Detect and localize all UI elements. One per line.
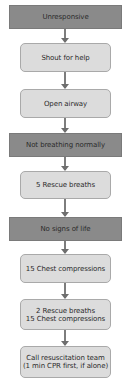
node-label-line-2: (1 min CPR first, if alone) bbox=[23, 362, 108, 370]
node-call-resuscitation-team: Call resuscitation team (1 min CPR first… bbox=[20, 346, 111, 378]
node-open-airway: Open airway bbox=[20, 89, 111, 118]
node-label-line-1: Call resuscitation team bbox=[23, 354, 108, 362]
node-not-breathing-normally: Not breathing normally bbox=[9, 133, 122, 157]
arrow-down-icon bbox=[64, 72, 66, 88]
node-label: 5 Rescue breaths bbox=[36, 181, 95, 189]
node-label-line-2: 15 Chest compressions bbox=[26, 315, 105, 323]
node-shout-for-help: Shout for help bbox=[20, 43, 111, 72]
node-unresponsive: Unresponsive bbox=[9, 5, 122, 29]
arrow-down-icon bbox=[64, 241, 66, 253]
node-label: No signs of life bbox=[40, 225, 90, 233]
node-label: Open airway bbox=[44, 100, 87, 108]
arrow-down-icon bbox=[64, 118, 66, 132]
node-five-rescue-breaths: 5 Rescue breaths bbox=[20, 171, 111, 199]
node-label: Shout for help bbox=[41, 54, 89, 62]
arrow-down-icon bbox=[64, 330, 66, 345]
node-no-signs-of-life: No signs of life bbox=[9, 217, 122, 241]
node-label: Unresponsive bbox=[42, 13, 88, 21]
node-label: Not breathing normally bbox=[26, 141, 105, 149]
node-label: 15 Chest compressions bbox=[26, 265, 105, 273]
arrow-down-icon bbox=[64, 199, 66, 216]
node-two-breaths-fifteen-compressions: 2 Rescue breaths 15 Chest compressions bbox=[20, 299, 111, 330]
arrow-down-icon bbox=[64, 157, 66, 170]
arrow-down-icon bbox=[64, 29, 66, 42]
node-label-line-1: 2 Rescue breaths bbox=[26, 307, 105, 315]
arrow-down-icon bbox=[64, 283, 66, 298]
node-fifteen-chest-compressions: 15 Chest compressions bbox=[20, 254, 111, 283]
